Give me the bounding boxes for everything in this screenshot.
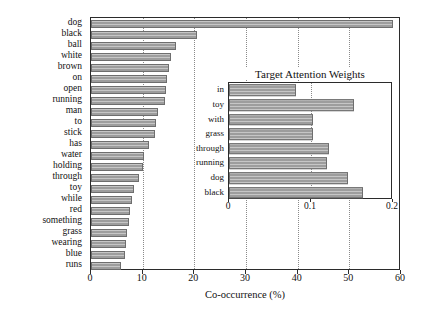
inset-x-tick-label: 0.1: [304, 201, 316, 211]
bar-row: [91, 18, 399, 29]
x-tick-label: 40: [292, 272, 302, 283]
main-y-tick-labels: dogblackballwhitebrownonopenrunningmanto…: [0, 17, 86, 270]
y-tick-label: water: [61, 150, 82, 160]
bar: [91, 86, 166, 94]
bar: [91, 185, 134, 193]
bar: [91, 207, 130, 215]
inset-x-tick-labels: 00.10.2: [228, 201, 392, 215]
bar: [91, 119, 156, 127]
y-tick-label: black: [61, 29, 82, 39]
inset-y-tick-labels: intoywithgrassthroughrunningdogblack: [180, 82, 224, 199]
x-tick-label: 10: [137, 272, 147, 283]
inset-plot-area: [228, 82, 392, 199]
inset-y-tick-label: black: [205, 187, 225, 196]
y-tick-label: ball: [68, 40, 82, 50]
y-tick-label: holding: [53, 161, 82, 171]
bar-row: [91, 29, 399, 40]
inset-y-tick-label: through: [196, 143, 224, 152]
x-axis-title: Co-occurrence (%): [205, 289, 285, 300]
inset-bar-row: [229, 142, 391, 157]
bar: [91, 196, 132, 204]
main-x-tick-labels: 0102030405060: [0, 272, 422, 288]
bar: [91, 42, 176, 50]
y-tick-label: runs: [66, 260, 82, 270]
x-tick-label: 30: [240, 272, 250, 283]
bar: [91, 174, 139, 182]
inset-title: Target Attention Weights: [228, 68, 392, 80]
y-tick-label: has: [69, 139, 82, 149]
inset-bar: [229, 99, 354, 111]
bar: [91, 141, 149, 149]
inset-bar: [229, 114, 313, 126]
y-tick-label: stick: [64, 128, 82, 138]
y-tick-label: white: [61, 51, 82, 61]
inset-bar: [229, 172, 348, 184]
bar: [91, 31, 197, 39]
bar: [91, 152, 144, 160]
bar: [91, 240, 126, 248]
y-tick-label: something: [42, 216, 82, 226]
y-tick-label: wearing: [51, 238, 82, 248]
inset-bar: [229, 187, 363, 199]
x-tick-label: 20: [188, 272, 198, 283]
y-tick-label: blue: [66, 249, 82, 259]
y-tick-label: toy: [70, 183, 82, 193]
y-tick-label: on: [73, 73, 83, 83]
inset-bar-row: [229, 83, 391, 98]
bar: [91, 53, 171, 61]
inset-bar: [229, 85, 296, 97]
inset-bar: [229, 143, 329, 155]
bar-row: [91, 238, 399, 249]
y-tick-label: dog: [68, 18, 82, 28]
bar: [91, 262, 121, 270]
y-tick-label: through: [52, 172, 82, 182]
inset-bar-row: [229, 185, 391, 200]
inset-bar-row: [229, 127, 391, 142]
bar: [91, 108, 158, 116]
bar-row: [91, 249, 399, 260]
inset-bar-rows: [229, 83, 391, 198]
bar: [91, 218, 129, 226]
inset-y-tick-label: dog: [211, 173, 225, 182]
inset-bar-row: [229, 156, 391, 171]
inset-bar-row: [229, 112, 391, 127]
bar: [91, 130, 155, 138]
y-tick-label: running: [52, 95, 82, 105]
inset-y-tick-label: in: [217, 85, 224, 94]
y-tick-label: open: [64, 84, 82, 94]
co-occurrence-figure: dogblackballwhitebrownonopenrunningmanto…: [0, 0, 422, 321]
inset-bar: [229, 158, 327, 170]
inset-y-tick-label: running: [196, 158, 224, 167]
bar: [91, 251, 125, 259]
y-tick-label: brown: [58, 62, 82, 72]
x-tick-label: 60: [395, 272, 405, 283]
inset-y-tick-label: grass: [206, 129, 225, 138]
y-tick-label: red: [70, 205, 82, 215]
inset-x-tick-label: 0: [226, 201, 231, 211]
bar-row: [91, 51, 399, 62]
y-tick-label: grass: [62, 227, 82, 237]
inset-bar-row: [229, 98, 391, 113]
inset-bar: [229, 128, 313, 140]
inset-bar-row: [229, 171, 391, 186]
bar: [91, 64, 169, 72]
bar: [91, 75, 167, 83]
bar: [91, 163, 143, 171]
x-tick-label: 50: [343, 272, 353, 283]
inset-x-tick-label: 0.2: [386, 201, 398, 211]
y-tick-label: while: [61, 194, 82, 204]
inset-chart: Target Attention Weights intoywithgrasst…: [228, 82, 392, 215]
inset-y-tick-label: with: [208, 114, 224, 123]
bar: [91, 229, 127, 237]
y-tick-label: to: [75, 117, 82, 127]
x-tick-label: 0: [88, 272, 93, 283]
y-tick-label: man: [66, 106, 82, 116]
inset-y-tick-label: toy: [212, 99, 224, 108]
bar: [91, 97, 165, 105]
bar-row: [91, 227, 399, 238]
bar: [91, 20, 393, 28]
bar-row: [91, 40, 399, 51]
bar-row: [91, 216, 399, 227]
